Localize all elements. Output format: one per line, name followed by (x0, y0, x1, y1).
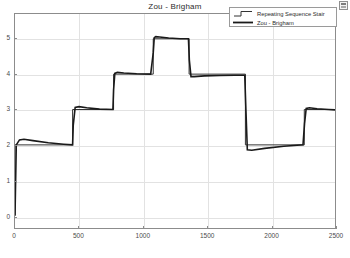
x-tick (336, 226, 337, 229)
y-tick-label: 4 (0, 70, 10, 78)
icon-titlebar (341, 3, 346, 5)
x-tick (143, 226, 144, 229)
x-tick (207, 226, 208, 229)
y-tick-label: 2 (0, 141, 10, 149)
maximize-restore-icon[interactable] (339, 1, 348, 10)
x-tick-label: 2000 (264, 232, 278, 240)
x-tick-label: 1500 (200, 232, 214, 240)
stair-step-icon (232, 9, 254, 18)
legend-label-1: Zou - Brigham (257, 19, 294, 27)
y-tick-label: 0 (0, 213, 10, 221)
series-line-1 (15, 37, 335, 216)
legend-label-0: Repeating Sequence Stair (257, 10, 325, 18)
plot-area[interactable] (14, 13, 336, 229)
y-tick (14, 38, 17, 39)
legend[interactable]: Repeating Sequence Stair Zou - Brigham (229, 7, 337, 27)
x-tick (272, 226, 273, 229)
y-tick-label: 3 (0, 105, 10, 113)
y-tick (14, 109, 17, 110)
solid-line-icon (232, 18, 254, 27)
scope-figure: Zou - Brigham 05001000150020002500012345… (0, 0, 350, 258)
series-layer (15, 14, 335, 228)
icon-body (341, 6, 346, 8)
x-tick (14, 226, 15, 229)
y-tick (14, 217, 17, 218)
legend-entry-0[interactable]: Repeating Sequence Stair (230, 9, 336, 18)
y-tick (14, 181, 17, 182)
y-tick-label: 5 (0, 34, 10, 42)
series-svg (15, 14, 335, 228)
x-tick-label: 2500 (329, 232, 343, 240)
x-tick-label: 0 (12, 232, 16, 240)
y-tick-label: 1 (0, 177, 10, 185)
x-tick (78, 226, 79, 229)
x-tick-label: 1000 (136, 232, 150, 240)
y-tick (14, 74, 17, 75)
series-line-0 (15, 39, 335, 216)
y-tick (14, 145, 17, 146)
x-tick-label: 500 (73, 232, 84, 240)
legend-entry-1[interactable]: Zou - Brigham (230, 18, 336, 27)
